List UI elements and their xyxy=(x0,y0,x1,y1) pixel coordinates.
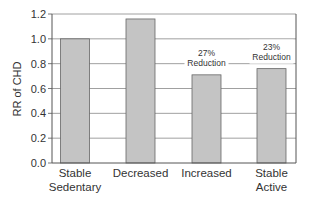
y-tick-label: 0.4 xyxy=(31,107,46,119)
bar-chart: 0.00.20.40.60.81.01.2 StableSedentaryDec… xyxy=(0,0,311,204)
x-category-label: Stable xyxy=(59,167,92,179)
reduction-annotation: 23% xyxy=(263,42,280,52)
y-tick-label: 0.8 xyxy=(31,58,46,70)
x-axis-categories: StableSedentaryDecreasedIncreasedStableA… xyxy=(49,167,288,193)
y-tick-label: 0.6 xyxy=(31,83,46,95)
bars xyxy=(61,19,294,163)
y-axis-label: RR of CHD xyxy=(11,61,23,116)
y-tick-label: 1.0 xyxy=(31,33,46,45)
y-axis-ticks: 0.00.20.40.60.81.01.2 xyxy=(31,8,52,169)
reduction-annotation: Reduction xyxy=(252,52,291,62)
bar xyxy=(257,69,286,163)
bar xyxy=(61,39,90,163)
x-category-label: Active xyxy=(256,181,287,193)
x-category-label: Decreased xyxy=(113,167,169,179)
x-category-label: Increased xyxy=(181,167,232,179)
y-tick-label: 1.2 xyxy=(31,8,46,20)
bar xyxy=(192,75,221,163)
y-tick-label: 0.2 xyxy=(31,132,46,144)
y-tick-label: 0.0 xyxy=(31,157,46,169)
x-category-label: Stable xyxy=(255,167,288,179)
x-category-label: Sedentary xyxy=(49,181,102,193)
bar xyxy=(126,19,155,163)
reduction-annotation: 27% xyxy=(198,48,215,58)
reduction-annotation: Reduction xyxy=(187,58,226,68)
